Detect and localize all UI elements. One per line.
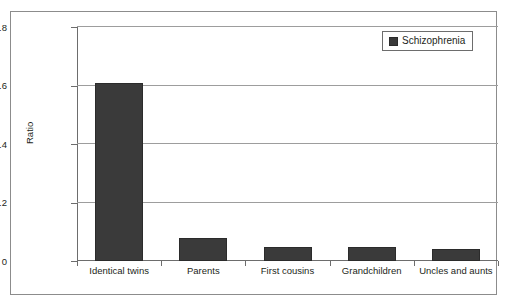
y-tick-mark [71, 261, 77, 262]
x-axis-label: First cousins [245, 265, 329, 277]
bar [179, 238, 227, 261]
y-tick-label: 0.8 [0, 23, 7, 33]
y-tick-mark [71, 86, 77, 87]
x-axis-label: Uncles and aunts [414, 265, 498, 277]
plot-area [77, 27, 498, 261]
y-tick-label-wrap: 0.8 [11, 27, 71, 28]
y-tick-mark [71, 27, 77, 28]
legend-label-schizophrenia: Schizophrenia [402, 36, 465, 46]
bar [264, 247, 312, 261]
y-tick-label: 0.4 [0, 140, 7, 150]
y-tick-label-wrap: 0.2 [11, 203, 71, 204]
y-tick-label: 0.2 [0, 198, 7, 208]
x-axis-label: Grandchildren [330, 265, 414, 277]
gridline [77, 26, 498, 27]
chart-legend: Schizophrenia [382, 31, 473, 51]
bar [432, 249, 480, 261]
bar [348, 247, 396, 261]
y-tick-mark [71, 144, 77, 145]
x-axis-label: Identical twins [77, 265, 161, 277]
y-tick-mark [71, 203, 77, 204]
x-tick-mark [498, 261, 499, 266]
y-tick-label: 0 [2, 257, 7, 267]
y-tick-label-wrap: 0.6 [11, 86, 71, 87]
y-tick-label-wrap: 0.4 [11, 144, 71, 145]
bar [95, 83, 143, 261]
x-axis-category-labels: Identical twinsParentsFirst cousinsGrand… [77, 265, 498, 295]
chart-figure-frame: Ratio 00.20.40.60.8 Identical twinsParen… [10, 11, 497, 295]
y-axis-title: Ratio [25, 122, 35, 144]
y-tick-label-wrap: 0 [11, 261, 71, 262]
legend-swatch-schizophrenia [389, 37, 398, 46]
y-tick-label: 0.6 [0, 81, 7, 91]
x-axis-label: Parents [161, 265, 245, 277]
